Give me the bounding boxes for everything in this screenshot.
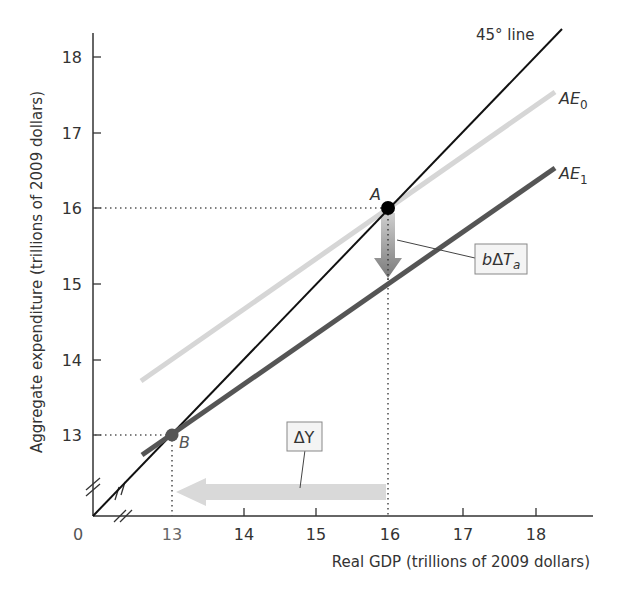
x-tick-label: 14 — [234, 525, 254, 544]
y-ticks: 18 17 16 15 14 13 — [62, 48, 101, 445]
x-tick-label: 15 — [306, 525, 326, 544]
y-tick-label: 18 — [62, 48, 82, 67]
y-tick-label: 13 — [62, 426, 82, 445]
y-axis-title: Aggregate expenditure (trillions of 2009… — [28, 91, 46, 453]
ae0-line — [141, 92, 555, 381]
point-b-label: B — [179, 433, 190, 452]
point-a-label: A — [369, 185, 381, 204]
y-tick-label: 14 — [62, 351, 82, 370]
delta-y-arrow — [176, 478, 386, 506]
delta-y-callout-label: ΔY — [294, 428, 315, 447]
ae0-label: AE0 — [558, 89, 588, 112]
x-tick-label: 16 — [380, 525, 400, 544]
y-tick-label: 17 — [62, 124, 82, 143]
x-tick-label: 18 — [526, 525, 546, 544]
ae1-label: AE1 — [558, 164, 588, 187]
x-tick-label: 13 — [162, 525, 182, 544]
x-tick-label: 17 — [453, 525, 473, 544]
x-ticks: 13 14 15 16 17 18 0 — [73, 508, 546, 544]
delta-y-callout-leader — [300, 450, 305, 488]
point-b — [166, 429, 179, 442]
line45-label: 45° line — [476, 26, 534, 44]
y-tick-label: 16 — [62, 199, 82, 218]
origin-label: 0 — [73, 525, 83, 544]
y-tick-label: 15 — [62, 275, 82, 294]
x-axis-title: Real GDP (trillions of 2009 dollars) — [332, 553, 590, 571]
shift-callout-leader — [397, 240, 475, 258]
ae1-line — [142, 168, 555, 455]
point-a — [381, 201, 395, 215]
chart-canvas: 18 17 16 15 14 13 13 14 15 16 17 18 0 Re… — [0, 0, 619, 595]
axes — [86, 33, 593, 522]
